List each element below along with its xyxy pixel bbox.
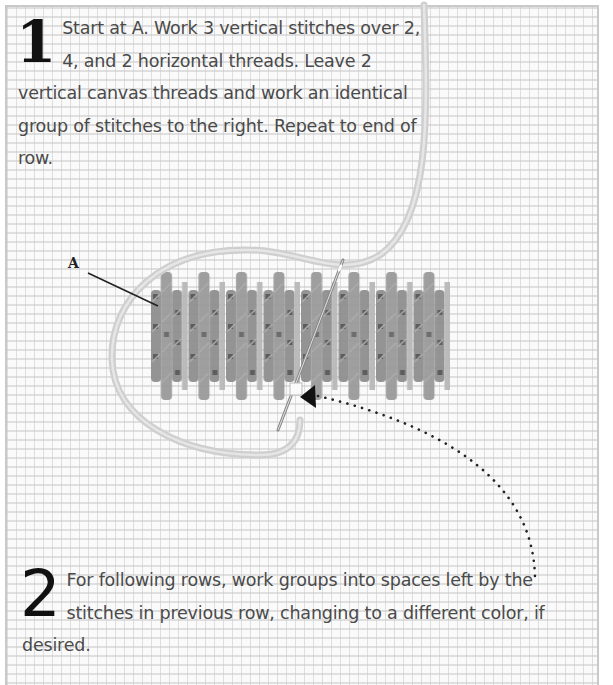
stitched-row (150, 272, 450, 400)
step-2-text: For following rows, work groups into spa… (22, 570, 545, 655)
label-a: A (68, 255, 79, 271)
dotted-arrow (318, 396, 535, 580)
step-2-number: 2 (20, 568, 61, 620)
step-2-instruction: 2 For following rows, work groups into s… (22, 564, 562, 662)
